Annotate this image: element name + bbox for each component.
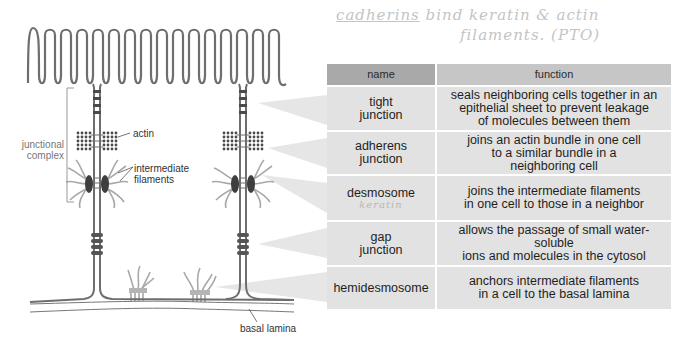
junction-name-cell: gapjunction: [327, 222, 435, 265]
junction-name: tightjunction: [359, 96, 402, 122]
junction-function-cell: anchors intermediate filamentsin a cell …: [437, 267, 671, 309]
table-row: adherensjunctionjoins an actin bundle in…: [327, 132, 671, 174]
pointer-wedges: [215, 95, 327, 302]
junction-function-cell: joins an actin bundle in one cellto a si…: [437, 132, 671, 174]
intermediate-filaments-leader-line: [118, 167, 133, 181]
junction-name: desmosomekeratin: [347, 187, 415, 210]
tight-junctions: [93, 90, 247, 114]
junction-name-cell: adherensjunction: [327, 132, 435, 174]
table-row: hemidesmosomeanchors intermediate filame…: [327, 267, 671, 309]
header-name: name: [327, 64, 435, 85]
table-row: gapjunctionallows the passage of small w…: [327, 222, 671, 265]
actin-leader-line: [118, 133, 130, 137]
junction-function-cell: joins the intermediate filamentsin one c…: [437, 176, 671, 220]
handwritten-note-line1: cadherins bind keratin & actin: [336, 6, 599, 24]
microvilli-membrane: [28, 28, 286, 85]
handwritten-note-line2: filaments. (PTO): [460, 26, 600, 44]
pointer-desmosome: [262, 175, 327, 213]
actin-label: actin: [133, 128, 154, 139]
junctional-complex-bracket: [67, 88, 74, 202]
pointer-tight-junction: [258, 95, 327, 125]
junction-name: hemidesmosome: [333, 282, 428, 295]
intermediate-filaments-label: intermediate filaments: [134, 163, 189, 185]
basal-lamina-label: basal lamina: [240, 323, 296, 334]
pointer-gap-junction: [258, 228, 327, 258]
junctional-complex-label: junctional complex: [6, 139, 64, 161]
actin-bundles: [77, 132, 264, 151]
table-row: desmosomekeratinjoins the intermediate f…: [327, 176, 671, 220]
header-function: function: [437, 64, 671, 85]
junction-function-cell: allows the passage of small water-solubl…: [437, 222, 671, 265]
table-header-row: name function: [327, 64, 671, 85]
handwritten-annotation: keratin: [359, 200, 402, 210]
junction-function-table: name function tightjunctionseals neighbo…: [327, 64, 671, 311]
gap-junctions: [91, 233, 249, 255]
junction-name-cell: tightjunction: [327, 87, 435, 130]
table-row: tightjunctionseals neighboring cells tog…: [327, 87, 671, 130]
junction-name-cell: desmosomekeratin: [327, 176, 435, 220]
junction-function-cell: seals neighboring cells together in anep…: [437, 87, 671, 130]
basal-lamina: [30, 301, 294, 312]
junction-name: gapjunction: [359, 231, 402, 257]
junction-name-cell: hemidesmosome: [327, 267, 435, 309]
pointer-adherens-junction: [268, 138, 327, 168]
junction-name: adherensjunction: [355, 140, 407, 166]
